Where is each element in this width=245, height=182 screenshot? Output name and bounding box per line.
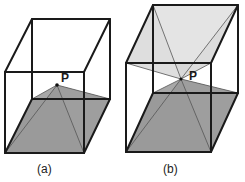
point-p-b-label: P [189,69,197,83]
figure-a: P (a) [5,19,110,176]
point-p-a-label: P [61,71,69,85]
point-p-b-marker [180,78,183,81]
caption-a: (a) [37,162,52,176]
point-p-a-marker [55,83,59,87]
figure-b: P (b) [126,5,238,176]
caption-b: (b) [163,162,178,176]
diagram-canvas: P (a) P [0,0,245,182]
cube-a-top-face [5,19,110,72]
